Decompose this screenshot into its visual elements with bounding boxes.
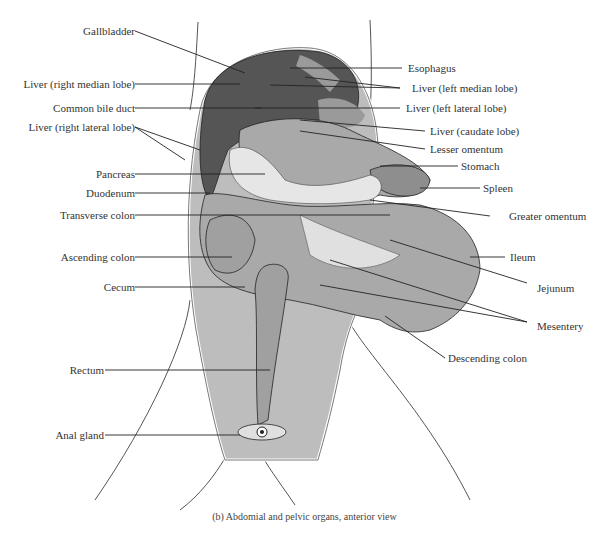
label-ascending-colon: Ascending colon <box>61 251 135 263</box>
label-stomach: Stomach <box>461 160 500 172</box>
label-descending-colon: Descending colon <box>448 352 527 364</box>
label-liver-right-median-lobe: Liver (right median lobe) <box>24 78 136 90</box>
label-esophagus: Esophagus <box>408 62 456 74</box>
anatomy-figure: Gallbladder Liver (right median lobe) Co… <box>0 0 609 538</box>
label-liver-caudate-lobe: Liver (caudate lobe) <box>430 125 519 137</box>
label-liver-left-lateral-lobe: Liver (left lateral lobe) <box>406 102 506 114</box>
label-lesser-omentum: Lesser omentum <box>430 143 503 155</box>
label-liver-right-lateral-lobe: Liver (right lateral lobe) <box>28 121 135 133</box>
label-ileum: Ileum <box>510 251 536 263</box>
label-greater-omentum: Greater omentum <box>509 210 586 222</box>
label-anal-gland: Anal gland <box>55 429 104 441</box>
label-common-bile-duct: Common bile duct <box>53 102 135 114</box>
label-pancreas: Pancreas <box>96 168 135 180</box>
label-jejunum: Jejunum <box>537 282 574 294</box>
label-mesentery: Mesentery <box>537 320 583 332</box>
label-gallbladder: Gallbladder <box>83 25 135 37</box>
label-duodenum: Duodenum <box>86 187 135 199</box>
label-cecum: Cecum <box>104 281 135 293</box>
label-spleen: Spleen <box>483 182 513 194</box>
figure-caption: (b) Abdomial and pelvic organs, anterior… <box>0 511 609 522</box>
label-transverse-colon: Transverse colon <box>60 209 135 221</box>
label-rectum: Rectum <box>70 364 104 376</box>
label-liver-left-median-lobe: Liver (left median lobe) <box>412 82 517 94</box>
